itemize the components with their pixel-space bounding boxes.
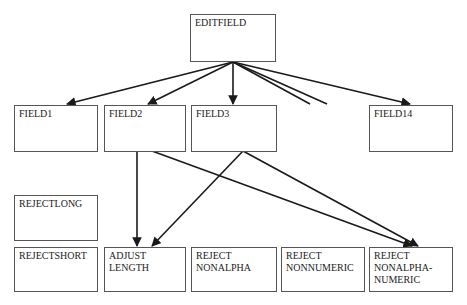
node-label: FIELD1 bbox=[19, 108, 93, 120]
node-editfield: EDITFIELD bbox=[190, 14, 276, 62]
edge-field2-rejectnan bbox=[152, 151, 412, 246]
node-field14: FIELD14 bbox=[369, 105, 453, 152]
edge-field3-adjust bbox=[152, 151, 243, 246]
node-label: FIELD14 bbox=[374, 108, 448, 120]
node-rejectlong: REJECTLONG bbox=[14, 195, 98, 241]
node-label: EDITFIELD bbox=[195, 17, 271, 29]
node-rejectshort: REJECTSHORT bbox=[14, 247, 98, 292]
node-label: ADJUST LENGTH bbox=[109, 250, 181, 274]
edge-elided-1 bbox=[233, 62, 310, 104]
edge-editfield-field14 bbox=[233, 62, 410, 104]
edge-field3-rejectnan bbox=[243, 151, 418, 246]
node-field2: FIELD2 bbox=[104, 105, 186, 152]
edge-editfield-field1 bbox=[67, 62, 233, 104]
node-rejectnonalpha: REJECT NONALPHA bbox=[191, 247, 277, 292]
node-label: REJECT NONALPHA- NUMERIC bbox=[374, 250, 448, 286]
node-adjustlength: ADJUST LENGTH bbox=[104, 247, 186, 292]
edge-editfield-field2 bbox=[148, 62, 233, 104]
edge-elided-2 bbox=[233, 62, 327, 104]
node-label: REJECTSHORT bbox=[19, 250, 93, 262]
node-rejectnonalphanumeric: REJECT NONALPHA- NUMERIC bbox=[369, 247, 453, 292]
node-label: FIELD3 bbox=[196, 108, 272, 120]
node-label: REJECT NONALPHA bbox=[196, 250, 272, 274]
node-label: REJECTLONG bbox=[19, 198, 93, 210]
node-label: FIELD2 bbox=[109, 108, 181, 120]
node-rejectnonnumeric: REJECT NONNUMERIC bbox=[281, 247, 365, 292]
node-field3: FIELD3 bbox=[191, 105, 277, 152]
node-label: REJECT NONNUMERIC bbox=[286, 250, 360, 274]
node-field1: FIELD1 bbox=[14, 105, 98, 152]
